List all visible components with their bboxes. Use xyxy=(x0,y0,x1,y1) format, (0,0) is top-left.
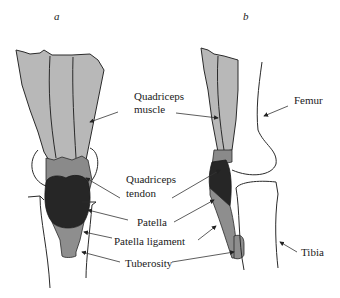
knee-anatomy-diagram: a b xyxy=(0,0,340,298)
leader-patella-ligament-b xyxy=(198,226,216,240)
leader-quadriceps-tendon-a xyxy=(86,178,120,198)
quadriceps-muscle-a xyxy=(16,50,104,162)
label-patella-ligament: Patella ligament xyxy=(114,235,185,247)
tuberosity-b xyxy=(234,235,244,259)
leader-femur xyxy=(264,106,288,116)
label-quadriceps-tendon-line1: Quadriceps xyxy=(126,173,176,185)
label-tuberosity: Tuberosity xyxy=(125,257,173,269)
label-quadriceps-tendon-line2: tendon xyxy=(126,187,156,199)
label-femur: Femur xyxy=(294,94,323,106)
panel-label-b: b xyxy=(243,10,249,22)
label-quadriceps-muscle-line2: muscle xyxy=(134,103,165,115)
panel-a-drawing xyxy=(16,50,104,288)
leader-patella-b xyxy=(174,200,214,222)
femur-outline-b xyxy=(232,62,276,175)
label-tibia: Tibia xyxy=(301,246,324,258)
leader-patella-a xyxy=(88,210,128,220)
panel-label-a: a xyxy=(54,10,60,22)
label-patella: Patella xyxy=(137,216,167,228)
leader-tuberosity-b xyxy=(172,252,234,262)
panel-b-drawing xyxy=(201,48,278,270)
leader-tuberosity-a xyxy=(82,252,120,262)
quadriceps-muscle-b xyxy=(201,48,238,152)
leader-patella-ligament-a xyxy=(84,232,112,238)
tibia-outline-b xyxy=(236,181,278,270)
label-quadriceps-muscle-line1: Quadriceps xyxy=(134,90,184,102)
leader-tibia xyxy=(280,242,297,252)
